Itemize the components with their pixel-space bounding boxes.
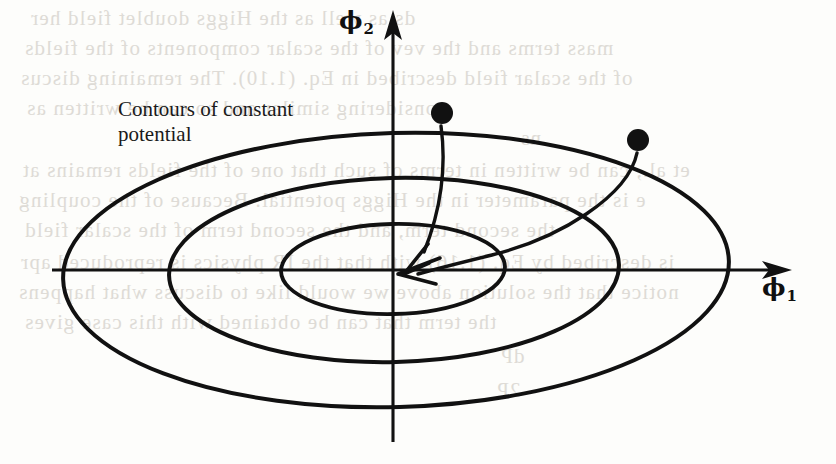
phi-symbol-vertical: ϕ: [339, 6, 363, 35]
phi-symbol-horizontal: ϕ: [762, 273, 786, 302]
field-point-left: [431, 102, 453, 124]
vertical-axis-label: ϕ2: [339, 6, 374, 38]
phi-subscript-vertical: 2: [363, 20, 374, 38]
field-point-right: [627, 129, 649, 151]
figure-page: ds as well as the Higgs doublet field he…: [0, 0, 836, 464]
arrow-from-left-point: [404, 126, 443, 274]
arrow-from-left-point-path: [424, 126, 443, 252]
horizontal-axis-label: ϕ1: [762, 273, 797, 305]
arrow-from-right-point-path: [418, 153, 637, 274]
phi-subscript-horizontal: 1: [786, 287, 797, 305]
contours-annotation-label: Contours of constant potential: [118, 97, 293, 147]
contour-figure: [0, 0, 836, 464]
